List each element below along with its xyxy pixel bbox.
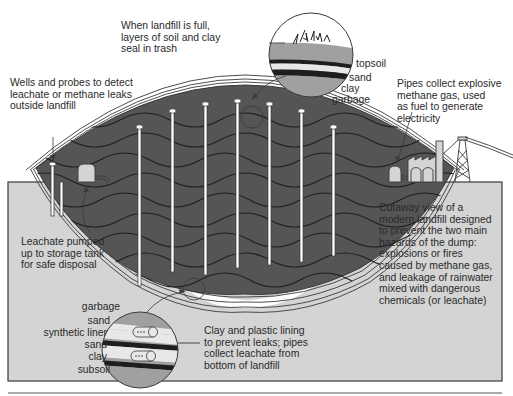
bottom-inset-layer-clay: clay [89, 351, 107, 363]
bottom-inset-layer-sand-2: sand [84, 339, 107, 351]
bottom-inset-layer-synthetic-liner: synthetic liner [43, 327, 107, 339]
top-inset-layer-clay: clay [341, 83, 359, 95]
methane-callout-label: Pipes collect explosive methane gas, use… [397, 78, 502, 124]
transmission-tower [455, 137, 513, 182]
bottom-inset-layer-sand: sand [87, 315, 110, 327]
wells-callout-label: Wells and probes to detect leachate or m… [10, 77, 133, 112]
bottom-inset-layer-garbage: garbage [82, 301, 120, 313]
cutaway-description-label: Cutaway view of a modern landfill design… [379, 202, 493, 306]
liner-callout-label: Clay and plastic lining to prevent leaks… [204, 325, 308, 371]
leachate-tank-callout-label: Leachate pumped up to storage tank for s… [21, 236, 104, 271]
cap-callout-label: When landfill is full, layers of soil an… [121, 20, 220, 55]
top-inset-layer-topsoil: topsoil [356, 58, 386, 70]
bottom-inset-layer-subsoil: subsoil [78, 364, 110, 376]
top-inset-layer-garbage: garbage [332, 94, 370, 106]
top-inset-layer-sand: sand [349, 72, 372, 84]
